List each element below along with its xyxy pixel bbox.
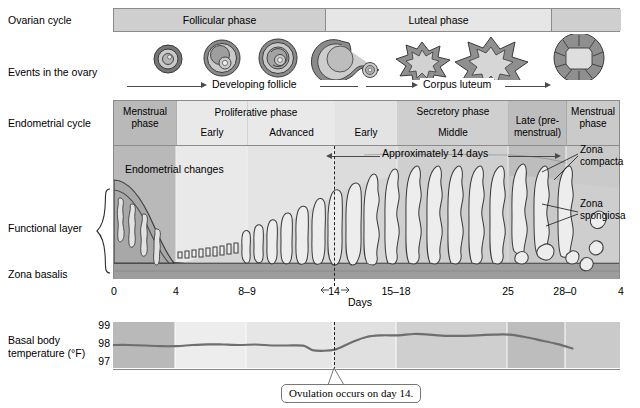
bbt-ytick-99: 99 (88, 319, 110, 331)
row-label-zona-basalis: Zona basalis (8, 268, 68, 281)
row-label-events-in-ovary: Events in the ovary (8, 66, 97, 79)
developing-follicle-arrowhead (201, 82, 207, 88)
bbt-chart-svg (113, 322, 620, 370)
endometrial-column-proliferative-advanced-sub: Advanced (248, 127, 335, 139)
day14-marker-arrows (319, 284, 351, 296)
endometrial-column-late-premenstrual-title: Late (pre- menstrual) (509, 115, 566, 139)
endometrial-column-proliferative-early: Early (177, 101, 248, 145)
developing-follicle-arrow-line-right (320, 86, 358, 87)
ovulation-day14-dashed-line-top (334, 146, 335, 286)
day-tick-8-9: 8–9 (238, 285, 256, 297)
ovarian-segment-follicular: Follicular phase (114, 9, 326, 31)
graafian-follicle-ovulation-icon (311, 40, 379, 80)
bbt-ytick-98: 98 (88, 337, 110, 349)
endometrial-cycle-header: Menstrual phase Early Advanced Prolifera… (113, 100, 620, 146)
row-label-bbt: Basal body temperature (°F) (8, 334, 85, 359)
endometrial-column-menstrual-1-title: Menstrual phase (114, 106, 176, 130)
row-label-endometrial-cycle: Endometrial cycle (8, 117, 91, 130)
ovulation-day14-dashed-line-bottom (334, 322, 335, 370)
endometrial-column-late-premenstrual: Late (pre- menstrual) (509, 101, 567, 145)
endometrial-column-secretory-middle: Secretory phase Middle (398, 101, 509, 145)
day-tick-28-0: 28–0 (553, 285, 576, 297)
primary-follicle-icon (204, 40, 240, 76)
corpus-luteum-arrow-line-right (505, 86, 547, 87)
day-tick-15-18: 15–18 (381, 285, 410, 297)
endometrial-column-proliferative-early-sub: Early (177, 127, 247, 139)
zona-compacta-leader-lines (520, 150, 582, 186)
corpus-luteum-arrowhead-left (412, 82, 418, 88)
ovarian-cycle-bar: Follicular phase Luteal phase (113, 8, 620, 32)
ovary-structures-illustration (113, 34, 640, 80)
corpus-luteum-arrow-line-left (366, 86, 414, 87)
approximately-14-days-label: Approximately 14 days (382, 147, 488, 159)
endometrial-column-secretory-early: Early (335, 101, 398, 145)
bbt-chart (113, 322, 620, 370)
zona-spongiosa-leader-lines (524, 198, 582, 234)
day-tick-4b: 4 (618, 285, 624, 297)
developing-follicle-arrow-line-left (127, 86, 203, 87)
endometrial-group-secretory-phase-label: Secretory phase (398, 106, 508, 118)
zona-spongiosa-label: Zona spongiosa (580, 198, 626, 222)
endometrial-column-menstrual-1: Menstrual phase (114, 101, 177, 145)
zona-compacta-label: Zona compacta (580, 144, 623, 168)
developing-follicle-label: Developing follicle (209, 78, 300, 90)
corpus-luteum-label: Corpus luteum (420, 78, 494, 90)
ovarian-segment-follicular-label: Follicular phase (183, 14, 257, 26)
day-tick-4: 4 (173, 285, 179, 297)
row-label-ovarian-cycle: Ovarian cycle (8, 14, 72, 27)
endometrial-column-secretory-early-sub: Early (335, 127, 397, 139)
endometrial-column-secretory-middle-sub: Middle (398, 127, 508, 139)
secondary-follicle-icon (259, 39, 297, 77)
day-tick-25: 25 (502, 285, 514, 297)
ovary-arrow-row: Developing follicle Corpus luteum (113, 78, 640, 94)
ovulation-callout: Ovulation occurs on day 14. (281, 384, 421, 403)
days-axis-label: Days (348, 296, 372, 308)
functional-layer-brace (96, 188, 112, 274)
figure-root: Ovarian cycle Events in the ovary Endome… (0, 0, 640, 408)
corpus-luteum-arrowhead-right (545, 82, 551, 88)
day-tick-0: 0 (111, 285, 117, 297)
ovarian-segment-tail (552, 9, 621, 31)
span-arrowhead-left (326, 153, 332, 159)
ovarian-segment-luteal-label: Luteal phase (408, 14, 468, 26)
corpus-luteum-regressing-icon (554, 34, 604, 80)
primordial-follicle-icon (154, 45, 182, 73)
mature-corpus-luteum-icon (455, 37, 528, 80)
early-corpus-luteum-icon (396, 42, 450, 80)
ovarian-segment-luteal: Luteal phase (326, 9, 552, 31)
endometrial-column-menstrual-2: Menstrual phase (567, 101, 619, 145)
bbt-ytick-97: 97 (88, 355, 110, 367)
endometrial-changes-annotation: Endometrial changes (125, 163, 224, 175)
endometrial-column-menstrual-2-title: Menstrual phase (567, 106, 619, 130)
row-label-functional-layer: Functional layer (8, 222, 82, 235)
endometrial-column-proliferative-advanced: Advanced (248, 101, 335, 145)
